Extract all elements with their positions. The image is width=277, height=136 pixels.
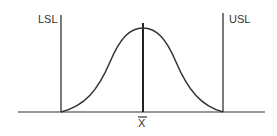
usl-label: USL xyxy=(229,13,250,25)
lsl-label: LSL xyxy=(38,13,58,25)
mean-label: X xyxy=(138,117,145,129)
